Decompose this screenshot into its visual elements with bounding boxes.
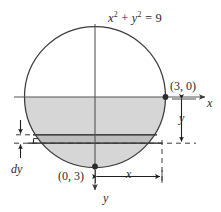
x-dimension-label: x — [126, 168, 131, 180]
equation-equals-sign: = — [145, 11, 152, 25]
right-angle-mark — [34, 139, 39, 144]
y-axis-label-text: y — [103, 191, 108, 205]
dy-dimension-text: dy — [11, 162, 22, 176]
y-dimension-label: y — [179, 112, 184, 124]
point-3-0-marker — [163, 94, 169, 100]
equation-right-side: 9 — [155, 11, 161, 25]
equation-x-exponent: 2 — [114, 10, 118, 19]
point-0-3-label: (0, 3) — [58, 170, 84, 182]
point-0-3-marker — [92, 164, 98, 170]
y-axis-label: y — [103, 192, 108, 204]
y-dimension-text: y — [179, 111, 184, 125]
circle-diagram-svg — [0, 0, 221, 212]
equation-y-exponent: 2 — [137, 10, 141, 19]
equation-plus-sign: + — [121, 11, 128, 25]
equation-label: x2 + y2 = 9 — [108, 12, 162, 25]
x-dimension-text: x — [126, 167, 131, 181]
dy-dimension-label: dy — [11, 163, 22, 175]
figure-container: x2 + y2 = 9 (3, 0) (0, 3) x y dy y x — [0, 0, 221, 212]
x-axis-label-text: x — [207, 96, 212, 110]
x-axis-label: x — [207, 97, 212, 109]
point-3-0-label: (3, 0) — [170, 80, 196, 92]
